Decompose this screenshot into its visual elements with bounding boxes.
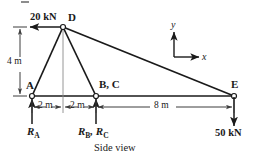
figure-caption: Side view (94, 143, 136, 154)
axis-label-x: x (202, 52, 206, 62)
joint-D (61, 25, 66, 30)
dimension-label-2m-second: 2 m (70, 101, 85, 111)
dimension-label-2m-first: 2 m (38, 101, 53, 111)
reaction-subscript-c: C (103, 131, 108, 140)
reaction-label-a: RA (27, 126, 40, 140)
dimension-label-4m: 4 m (7, 57, 22, 67)
coordinate-axes (174, 32, 199, 57)
member-D-E (63, 27, 234, 96)
node-label-D: D (68, 12, 76, 23)
load-arrows (30, 27, 234, 126)
load-label-20kn: 20 kN (30, 12, 57, 23)
node-label-A: A (26, 80, 34, 91)
figure-container: 20 kN D A B, C E 4 m 2 m 2 m 8 m RA RB, … (0, 0, 257, 158)
member-A-D (32, 27, 63, 96)
joint-A (30, 94, 35, 99)
dimension-label-8m: 8 m (154, 101, 169, 111)
member-D-BC (63, 27, 96, 96)
dimension-horizontal-chain (32, 30, 234, 113)
joint-BC (94, 94, 99, 99)
axis-label-y: y (171, 20, 175, 30)
node-label-BC: B, C (99, 79, 120, 90)
reaction-subscript-a: A (34, 131, 39, 140)
node-label-E: E (231, 79, 238, 90)
reaction-label-bc: RB, RC (78, 126, 109, 140)
load-label-50kn: 50 kN (215, 128, 242, 139)
